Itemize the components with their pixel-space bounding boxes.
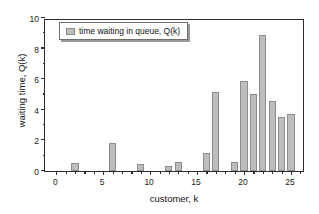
y-tick-major	[41, 109, 45, 110]
x-axis-title: customer, k	[44, 193, 304, 204]
x-axis-tick-labels: 0510152025	[44, 177, 304, 189]
x-tick-minor	[188, 171, 189, 174]
bar	[269, 101, 276, 171]
bar	[175, 162, 182, 171]
y-tick-minor	[43, 63, 46, 64]
x-tick-label: 10	[144, 177, 153, 187]
x-tick-major	[103, 171, 104, 175]
x-tick-minor	[272, 171, 273, 174]
x-tick-label: 15	[191, 177, 200, 187]
y-tick-major	[41, 170, 45, 171]
bar	[259, 35, 266, 171]
x-tick-major	[244, 171, 245, 175]
bar	[278, 117, 285, 171]
bar	[137, 164, 144, 171]
bar-series-layer	[45, 20, 303, 171]
y-axis-title: waiting time, Q(k)	[16, 21, 27, 161]
bar	[203, 153, 210, 171]
x-tick-major	[291, 171, 292, 175]
y-tick-label: 4	[34, 106, 39, 116]
y-tick-label: 2	[34, 136, 39, 146]
x-tick-minor	[253, 171, 254, 174]
legend-swatch-icon	[66, 28, 75, 35]
x-tick-major	[150, 171, 151, 175]
x-tick-minor	[141, 171, 142, 174]
x-tick-minor	[225, 171, 226, 174]
plot-area	[44, 19, 304, 172]
y-tick-minor	[43, 32, 46, 33]
x-tick-minor	[206, 171, 207, 174]
x-tick-minor	[216, 171, 217, 174]
legend-entry-label: time waiting in queue, Q(k)	[79, 26, 180, 36]
x-tick-minor	[122, 171, 123, 174]
x-tick-minor	[178, 171, 179, 174]
y-tick-label: 0	[34, 167, 39, 177]
x-tick-minor	[300, 171, 301, 174]
x-tick-major	[56, 171, 57, 175]
y-tick-minor	[43, 93, 46, 94]
chart-legend: time waiting in queue, Q(k)	[59, 22, 188, 40]
x-tick-minor	[84, 171, 85, 174]
x-tick-major	[197, 171, 198, 175]
x-tick-minor	[75, 171, 76, 174]
bar	[109, 143, 116, 171]
y-tick-label: 10	[30, 14, 39, 24]
chart-figure: 0246810 0510152025 waiting time, Q(k) cu…	[0, 0, 319, 214]
x-tick-minor	[235, 171, 236, 174]
bar	[240, 81, 247, 171]
bar	[231, 162, 238, 171]
x-tick-minor	[113, 171, 114, 174]
x-tick-minor	[263, 171, 264, 174]
x-tick-label: 20	[238, 177, 247, 187]
bar	[250, 94, 257, 171]
y-tick-major	[41, 17, 45, 18]
x-tick-minor	[169, 171, 170, 174]
y-tick-major	[41, 47, 45, 48]
x-tick-label: 0	[53, 177, 58, 187]
y-tick-label: 6	[34, 75, 39, 85]
y-tick-major	[41, 78, 45, 79]
x-tick-label: 5	[100, 177, 105, 187]
y-tick-minor	[43, 124, 46, 125]
x-tick-minor	[94, 171, 95, 174]
bar	[287, 114, 294, 171]
x-tick-label: 25	[285, 177, 294, 187]
x-tick-minor	[160, 171, 161, 174]
x-tick-minor	[282, 171, 283, 174]
y-tick-minor	[43, 155, 46, 156]
x-tick-minor	[131, 171, 132, 174]
bar	[212, 92, 219, 171]
x-tick-minor	[66, 171, 67, 174]
bar	[71, 163, 78, 171]
y-tick-major	[41, 139, 45, 140]
y-tick-label: 8	[34, 45, 39, 55]
